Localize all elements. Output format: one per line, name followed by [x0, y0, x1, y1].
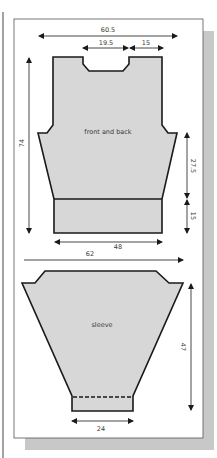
sleeve-label: sleeve: [91, 321, 112, 329]
dim-rib-length-label: 15: [189, 212, 197, 220]
dim-side-length-label: 27.5: [189, 159, 197, 173]
dim-body-length-label: 74: [18, 139, 26, 147]
body-piece: [38, 57, 177, 233]
dim-cuff-width-label: 24: [97, 425, 105, 433]
dim-shoulder-width-label: 15: [142, 39, 150, 47]
body-label: front and back: [84, 128, 132, 136]
dim-sleeve-length-label: 47: [179, 343, 187, 351]
dim-sleeve-width-top-label: 62: [86, 250, 94, 258]
dim-neck-width-label: 19.5: [99, 39, 113, 47]
dim-body-width-bottom-label: 48: [114, 243, 122, 251]
pattern-schematic: front and back 60.5 19.5 15 74 27.5 15 4…: [0, 0, 217, 458]
dim-body-width-top-label: 60.5: [101, 26, 115, 34]
